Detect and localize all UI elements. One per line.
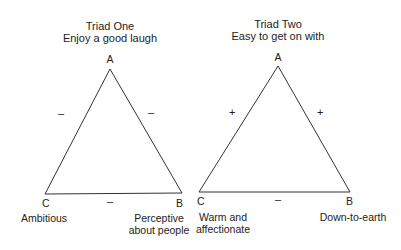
triad-two-vertex-a: A <box>274 51 281 63</box>
caption-line: about people <box>129 224 190 236</box>
triad-one-title: Triad One <box>63 20 157 32</box>
caption-line: affectionate <box>196 223 250 235</box>
triad-one-caption-b: Perceptive about people <box>129 212 190 236</box>
triad-one-vertex-a: A <box>106 53 113 65</box>
triad-one-vertex-b: B <box>176 197 183 209</box>
triad-two-edge-ac-sign: + <box>229 106 235 118</box>
caption-line: Perceptive <box>129 212 190 224</box>
triad-two-subtitle: Easy to get on with <box>232 30 325 42</box>
triad-two-heading: Triad Two Easy to get on with <box>232 18 325 42</box>
triad-one-edge-cb-sign: – <box>107 195 113 207</box>
triad-one-edge-ab-sign: – <box>148 106 154 118</box>
triad-two-vertex-c: C <box>197 195 205 207</box>
caption-line: Warm and <box>196 211 250 223</box>
triad-two-edge-cb-sign: – <box>275 193 281 205</box>
triad-two-edge-ab-sign: + <box>317 106 323 118</box>
triad-two-triangle <box>199 66 350 192</box>
triad-two-title: Triad Two <box>232 18 325 30</box>
triad-one-caption-c: Ambitious <box>21 212 67 224</box>
triad-two-caption-b: Down-to-earth <box>320 211 387 223</box>
triad-two-caption-c: Warm and affectionate <box>196 211 250 235</box>
triad-one-edge-ac-sign: – <box>58 107 64 119</box>
triad-one-subtitle: Enjoy a good laugh <box>63 32 157 44</box>
triad-one-vertex-c: C <box>42 197 50 209</box>
triad-one-triangle <box>45 69 182 194</box>
triad-two-vertex-b: B <box>346 195 353 207</box>
triad-one-heading: Triad One Enjoy a good laugh <box>63 20 157 44</box>
